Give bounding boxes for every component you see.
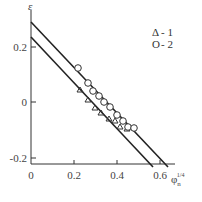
y-tick-label: -0.2 bbox=[10, 152, 27, 164]
x-tick-label: 0.2 bbox=[67, 169, 81, 181]
fit-line-series-1 bbox=[31, 37, 153, 167]
legend-label-1: - 1 bbox=[161, 26, 173, 38]
x-axis-label: φn1/4 bbox=[171, 172, 185, 188]
x-axis-sub: n bbox=[177, 180, 181, 188]
x-tick-label: 0.4 bbox=[110, 169, 124, 181]
y-tick-label: 0 bbox=[22, 96, 28, 108]
x-axis-sup: 1/4 bbox=[177, 172, 185, 178]
legend-label-2: - 2 bbox=[161, 38, 173, 50]
legend: Δ - 1 O - 2 bbox=[152, 26, 173, 50]
legend-symbol-2: O bbox=[152, 38, 160, 50]
legend-symbol-1: Δ bbox=[152, 26, 159, 38]
x-tick-label: 0.6 bbox=[153, 169, 167, 181]
chart: 0.2 0 -0.2 0 0.2 0.4 0.6 ε φn1/4 Δ - 1 O bbox=[0, 0, 202, 202]
x-tick-label: 0 bbox=[28, 169, 34, 181]
y-tick-label: 0.2 bbox=[13, 41, 27, 53]
y-axis-label: ε bbox=[28, 0, 33, 12]
